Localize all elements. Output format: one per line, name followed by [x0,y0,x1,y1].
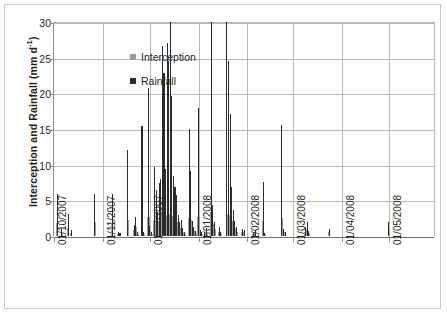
bar-rain [141,126,142,236]
x-axis-tick-mark [103,237,104,242]
bar-rain [201,232,202,236]
bar-rain [184,232,185,236]
bar-rain [236,227,237,236]
y-axis-title-tail: ) [27,37,39,41]
bar-rain [94,194,95,236]
gridline [54,59,434,60]
bar-rain [61,229,62,236]
x-axis-tick-mark [247,237,248,242]
bar-rain [281,125,282,236]
y-axis-title: Interception and Rainfall (mm d-1) [25,7,39,237]
x-axis-tick-label: 01/03/2008 [297,195,307,245]
bar-rain [148,88,149,236]
x-axis-tick-mark [150,237,151,242]
gridline [54,94,434,95]
x-axis-tick-label: 01/10/2007 [58,195,68,245]
y-axis-title-exponent: -1 [25,40,34,47]
vertical-gridline [247,23,248,237]
bar-rain [329,229,330,236]
gridline [54,166,434,167]
bar-rain [195,231,196,236]
bar-rain [285,232,286,236]
y-axis-tick-mark [50,201,54,202]
y-axis-tick-mark [50,166,54,167]
bar-rain [57,194,58,236]
vertical-gridline [103,23,104,237]
bar-rain [112,194,113,236]
vertical-gridline [293,23,294,237]
x-axis-tick-label: 01/02/2008 [251,195,261,245]
y-axis-tick-mark [50,130,54,131]
y-axis-tick-mark [50,94,54,95]
x-axis-tick-label: 01/05/2008 [393,195,403,245]
bar-rain [255,230,256,236]
bar-rain [264,233,265,236]
bar-rain [214,222,215,236]
bar-rain [137,232,138,236]
y-axis-tick-mark [50,59,54,60]
vertical-gridline [342,23,343,237]
plot-area: 051015202530 01/10/200701/11/200701/12/2… [53,22,435,236]
bar-rain [198,108,199,236]
gridline [54,130,434,131]
x-axis-tick-mark [199,237,200,242]
vertical-gridline [389,23,390,237]
x-axis-tick-label: 01/04/2008 [346,195,356,245]
gridline [54,23,434,24]
y-axis-title-text: Interception and Rainfall (mm d [27,47,39,207]
bar-rain [68,214,69,236]
bar-rain [263,182,264,236]
x-axis-tick-mark [54,237,55,242]
bar-rain [244,230,245,236]
legend-swatch-icon-rainfall [130,78,136,84]
chart-frame: Interception and Rainfall (mm d-1) 05101… [4,4,441,309]
x-axis-tick-mark [389,237,390,242]
bar-rain [220,232,221,236]
y-axis-tick-mark [50,23,54,24]
bar-rain [143,232,144,236]
bar-rain [388,222,389,236]
bar-rain [308,231,309,236]
bar-rain [206,228,207,236]
legend-swatch-icon-interception [130,54,136,60]
x-axis-tick-mark [293,237,294,242]
bar-rain [127,150,128,236]
bar-rain [119,233,120,236]
bar-rain [71,230,72,236]
bar-rain [151,232,152,236]
x-axis-tick-mark [342,237,343,242]
